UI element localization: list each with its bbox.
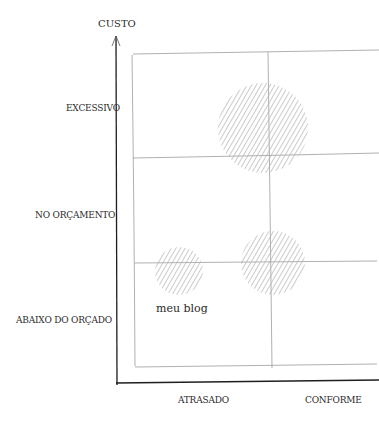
x-label-atrasado: ATRASADO	[178, 395, 229, 405]
bubbles	[155, 83, 308, 295]
bubble-small-meu-blog	[155, 247, 203, 295]
x-label-conforme: CONFORME	[305, 395, 362, 405]
bubble-large	[218, 83, 308, 173]
y-label-no-orcamento: NO ORÇAMENTO	[35, 210, 115, 220]
bubble-medium	[241, 231, 305, 295]
y-axis-line	[116, 36, 117, 385]
frame-top-line	[133, 50, 379, 54]
x-axis-line	[116, 380, 379, 383]
y-axis-title: CUSTO	[98, 18, 136, 29]
y-label-abaixo-do-orcado: ABAIXO DO ORÇADO	[16, 315, 112, 325]
frame-bottom-line	[135, 364, 377, 367]
y-label-excessivo: EXCESSIVO	[66, 103, 120, 113]
bubble-label-meu-blog: meu blog	[156, 302, 208, 315]
frame-left-line	[132, 55, 135, 366]
